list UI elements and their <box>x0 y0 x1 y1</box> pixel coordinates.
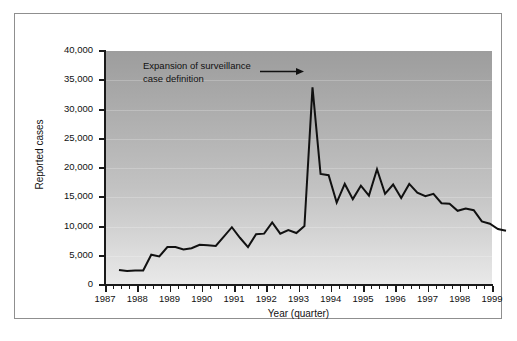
x-tick-minor <box>387 286 388 289</box>
y-tick <box>99 226 104 228</box>
grid-line <box>105 256 492 257</box>
x-tick-minor <box>411 286 412 289</box>
x-tick-major <box>460 286 462 292</box>
y-tick <box>99 109 104 111</box>
x-tick-major <box>492 286 494 292</box>
y-tick-label: 10,000 <box>15 221 93 231</box>
x-tick-minor <box>194 286 195 289</box>
x-tick-major <box>137 286 139 292</box>
x-tick-label: 1992 <box>256 293 277 304</box>
x-tick-minor <box>258 286 259 289</box>
x-tick-minor <box>476 286 477 289</box>
x-tick-minor <box>403 286 404 289</box>
annotation-arrow-icon <box>260 67 304 76</box>
grid-line <box>105 197 492 198</box>
x-tick-minor <box>274 286 275 289</box>
x-tick-major <box>363 286 365 292</box>
x-tick-minor <box>153 286 154 289</box>
x-tick-major <box>266 286 268 292</box>
y-tick <box>99 79 104 81</box>
x-tick-minor <box>210 286 211 289</box>
x-tick-label: 1987 <box>94 293 115 304</box>
x-tick-major <box>105 286 107 292</box>
x-tick-minor <box>452 286 453 289</box>
x-tick-minor <box>307 286 308 289</box>
x-tick-minor <box>468 286 469 289</box>
x-tick-major <box>234 286 236 292</box>
x-tick-minor <box>129 286 130 289</box>
grid-line <box>105 168 492 169</box>
x-tick-minor <box>436 286 437 289</box>
x-tick-minor <box>145 286 146 289</box>
x-tick-label: 1995 <box>352 293 373 304</box>
x-tick-minor <box>178 286 179 289</box>
figure-frame: 40,00035,00030,00025,00020,00015,00010,0… <box>14 13 502 319</box>
x-tick-minor <box>282 286 283 289</box>
x-tick-minor <box>161 286 162 289</box>
x-tick-minor <box>290 286 291 289</box>
x-tick-major <box>331 286 333 292</box>
x-axis-title: Year (quarter) <box>105 308 492 319</box>
x-tick-label: 1989 <box>159 293 180 304</box>
y-tick-label: 0 <box>15 279 93 289</box>
x-tick-major <box>202 286 204 292</box>
annotation-line-1: Expansion of surveillance <box>143 60 251 71</box>
y-tick-label: 5,000 <box>15 250 93 260</box>
x-tick-minor <box>419 286 420 289</box>
x-tick-label: 1991 <box>223 293 244 304</box>
figure-container: 40,00035,00030,00025,00020,00015,00010,0… <box>0 0 517 341</box>
y-tick-label: 30,000 <box>15 104 93 114</box>
x-tick-minor <box>121 286 122 289</box>
y-tick <box>99 50 104 52</box>
plot-area <box>105 51 492 285</box>
y-tick-label: 15,000 <box>15 191 93 201</box>
x-tick-minor <box>250 286 251 289</box>
grid-line <box>105 110 492 111</box>
x-tick-label: 1993 <box>288 293 309 304</box>
x-tick-minor <box>379 286 380 289</box>
x-tick-minor <box>226 286 227 289</box>
x-tick-minor <box>484 286 485 289</box>
x-tick-label: 1996 <box>385 293 406 304</box>
annotation-label: Expansion of surveillancecase definition <box>143 59 251 85</box>
x-tick-label: 1994 <box>320 293 341 304</box>
y-tick <box>99 138 104 140</box>
annotation-line-2: case definition <box>143 73 204 84</box>
x-tick-minor <box>355 286 356 289</box>
y-axis-line <box>104 50 106 286</box>
x-tick-label: 1997 <box>417 293 438 304</box>
y-axis-title: Reported cases <box>34 100 45 210</box>
y-tick-label: 25,000 <box>15 133 93 143</box>
x-tick-minor <box>339 286 340 289</box>
y-tick <box>99 167 104 169</box>
x-tick-minor <box>323 286 324 289</box>
y-tick-label: 35,000 <box>15 74 93 84</box>
x-tick-major <box>428 286 430 292</box>
x-tick-major <box>395 286 397 292</box>
grid-line <box>105 139 492 140</box>
x-tick-minor <box>218 286 219 289</box>
y-tick <box>99 196 104 198</box>
x-tick-minor <box>186 286 187 289</box>
y-tick <box>99 284 104 286</box>
x-tick-minor <box>347 286 348 289</box>
y-tick-label: 20,000 <box>15 162 93 172</box>
x-tick-label: 1999 <box>481 293 502 304</box>
x-tick-label: 1990 <box>191 293 212 304</box>
y-tick <box>99 255 104 257</box>
x-tick-major <box>170 286 172 292</box>
x-tick-minor <box>371 286 372 289</box>
x-tick-minor <box>113 286 114 289</box>
y-tick-label: 40,000 <box>15 45 93 55</box>
x-tick-minor <box>242 286 243 289</box>
x-tick-major <box>299 286 301 292</box>
x-tick-label: 1998 <box>449 293 470 304</box>
grid-line <box>105 227 492 228</box>
x-tick-label: 1988 <box>127 293 148 304</box>
x-tick-minor <box>444 286 445 289</box>
x-tick-minor <box>315 286 316 289</box>
